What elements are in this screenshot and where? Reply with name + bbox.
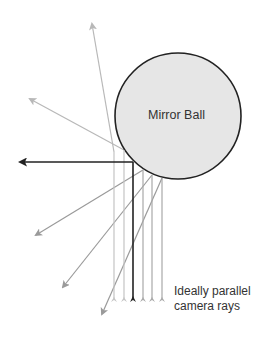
reflected-ray-4 [36,170,143,235]
caption-line-1: Ideally parallel [174,284,251,299]
reflected-ray-2 [30,99,124,150]
reflected-ray-6 [102,178,162,314]
ray-tail-markers [111,296,165,302]
reflected-ray-1 [92,24,114,152]
camera-rays-caption: Ideally parallel camera rays [174,284,251,314]
caption-line-2: camera rays [174,299,251,314]
mirror-ball-label: Mirror Ball [148,108,205,123]
